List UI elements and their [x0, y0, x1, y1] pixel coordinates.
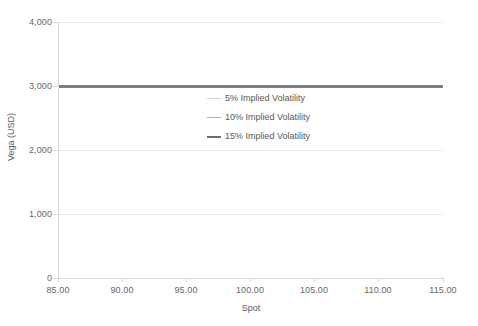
- legend-item-5pct[interactable]: 5% Implied Volatility: [207, 91, 335, 106]
- legend-label-5pct: 5% Implied Volatility: [225, 94, 305, 103]
- x-tick-85: [58, 278, 59, 282]
- series-line-15pct: [58, 85, 443, 88]
- vega-vs-spot-chart: 4,000 3,000 2,000 1,000 0 85.00 90.00 95…: [0, 0, 478, 326]
- y-tick-3000: [54, 86, 58, 87]
- x-tick-label-115: 115.00: [413, 286, 473, 295]
- legend-line-marker-icon: [207, 98, 221, 99]
- x-tick-110: [378, 278, 379, 282]
- y-tick-1000: [54, 214, 58, 215]
- x-tick-label-110: 110.00: [348, 286, 408, 295]
- legend-line-marker-icon: [207, 136, 221, 138]
- x-axis-line: [58, 278, 444, 279]
- y-tick-4000: [54, 22, 58, 23]
- y-tick-label-4000: 4,000: [4, 18, 52, 27]
- x-tick-label-95: 95.00: [156, 286, 216, 295]
- y-axis-title: Vega (USD): [6, 102, 16, 172]
- y-axis-line: [58, 22, 59, 279]
- legend-item-10pct[interactable]: 10% Implied Volatility: [207, 110, 335, 125]
- plot-area: [58, 22, 443, 278]
- legend-label-10pct: 10% Implied Volatility: [225, 113, 310, 122]
- chart-legend: 5% Implied Volatility 10% Implied Volati…: [207, 91, 335, 148]
- gridline-2000: [58, 150, 443, 151]
- y-tick-2000: [54, 150, 58, 151]
- x-tick-115: [443, 278, 444, 282]
- x-tick-100: [250, 278, 251, 282]
- y-tick-label-3000: 3,000: [4, 82, 52, 91]
- x-tick-95: [186, 278, 187, 282]
- x-axis-title: Spot: [58, 303, 444, 313]
- x-tick-label-90: 90.00: [92, 286, 152, 295]
- legend-label-15pct: 15% Implied Volatility: [225, 132, 310, 141]
- x-tick-label-100: 100.00: [220, 286, 280, 295]
- gridline-1000: [58, 214, 443, 215]
- legend-item-15pct[interactable]: 15% Implied Volatility: [207, 129, 335, 144]
- x-tick-label-85: 85.00: [28, 286, 88, 295]
- y-tick-label-0: 0: [4, 274, 52, 283]
- x-tick-105: [314, 278, 315, 282]
- gridline-4000: [58, 22, 443, 23]
- legend-line-marker-icon: [207, 117, 221, 118]
- x-tick-label-105: 105.00: [284, 286, 344, 295]
- y-tick-label-1000: 1,000: [4, 210, 52, 219]
- x-tick-90: [122, 278, 123, 282]
